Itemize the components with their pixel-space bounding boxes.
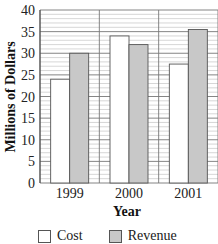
bar-revenue-1999 [70, 53, 89, 183]
legend-item-cost: Cost [38, 228, 83, 244]
cost-swatch-icon [38, 230, 51, 243]
legend-item-revenue: Revenue [109, 228, 177, 244]
x-tick-label: 2000 [115, 186, 143, 201]
bar-revenue-2001 [188, 29, 207, 183]
bar-chart: 0510152025303540 199920002001 Millions o… [0, 0, 218, 225]
legend: Cost Revenue [38, 228, 177, 244]
y-tick-label: 35 [21, 25, 35, 40]
y-tick-label: 5 [28, 154, 35, 169]
legend-label: Revenue [128, 228, 177, 244]
x-axis-title: Year [113, 204, 141, 219]
bar-cost-1999 [51, 79, 70, 183]
y-tick-label: 0 [28, 176, 35, 191]
y-tick-label: 10 [21, 133, 35, 148]
bar-cost-2000 [110, 36, 129, 183]
y-axis-ticks: 0510152025303540 [21, 3, 35, 191]
revenue-swatch-icon [109, 230, 122, 243]
x-tick-label: 2001 [174, 186, 202, 201]
x-axis-ticks: 199920002001 [56, 186, 203, 201]
y-axis-title: Millions of Dollars [3, 41, 18, 153]
y-tick-label: 30 [21, 46, 35, 61]
y-tick-label: 40 [21, 3, 35, 18]
x-tick-label: 1999 [56, 186, 84, 201]
bar-cost-2001 [169, 64, 188, 183]
y-tick-label: 25 [21, 68, 35, 83]
y-tick-label: 15 [21, 111, 35, 126]
bar-revenue-2000 [129, 45, 148, 183]
bars [51, 29, 208, 183]
legend-label: Cost [57, 228, 83, 244]
y-tick-label: 20 [21, 90, 35, 105]
